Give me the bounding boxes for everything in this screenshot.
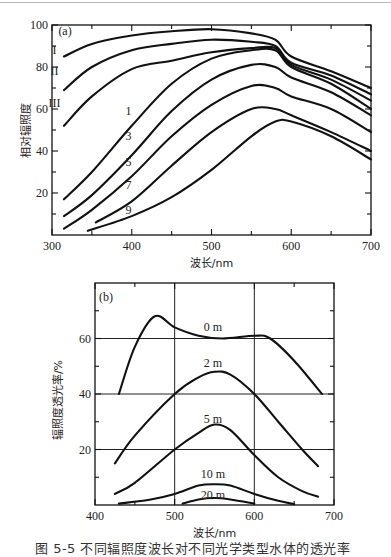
series-line-7 <box>96 107 371 222</box>
curve-annotation: (b) <box>99 290 113 304</box>
curve-annotation: 5 m <box>204 412 223 426</box>
x-axis-label: 波长/nm <box>190 257 233 270</box>
y-axis-label: 辐照度透光率/% <box>51 360 65 440</box>
curve-annotation: (a) <box>58 24 71 38</box>
x-tick-label: 500 <box>203 239 221 253</box>
figure-caption: 图 5-5 不同辐照度波长对不同光学类型水体的透光率 <box>35 538 351 557</box>
y-axis-label: 相对辐照度 <box>19 103 33 158</box>
x-tick-label: 500 <box>166 509 184 523</box>
curve-annotation: I <box>52 43 56 57</box>
x-tick-label: 600 <box>245 509 263 523</box>
chart-panel-a: 30040050060070020406080100波长/nm相对辐照度(a)I… <box>19 18 380 270</box>
curve-annotation: 5 <box>126 155 132 169</box>
series-line-3 <box>64 64 371 216</box>
curve-annotation: 7 <box>126 178 132 192</box>
y-tick-label: 80 <box>36 60 48 74</box>
y-tick-label: 60 <box>79 332 91 346</box>
series-line-II <box>64 40 371 95</box>
curve-annotation: 10 m <box>201 467 226 481</box>
y-tick-label: 40 <box>36 144 48 158</box>
series-line-5m <box>115 424 318 496</box>
y-tick-label: 60 <box>36 102 48 116</box>
y-tick-label: 100 <box>30 18 48 32</box>
y-tick-label: 20 <box>79 443 91 457</box>
chart-panel-b: 400500600700204060波长/nm辐照度透光率/%(b)0 m2 m… <box>51 283 343 540</box>
curve-annotation: 20 m <box>201 488 226 502</box>
x-tick-label: 400 <box>86 509 104 523</box>
curve-annotation: II <box>50 64 58 78</box>
curve-annotation: III <box>48 96 60 110</box>
curve-annotation: 1 <box>126 104 132 118</box>
x-tick-label: 700 <box>362 239 380 253</box>
series-line-5 <box>64 85 371 229</box>
x-tick-label: 700 <box>325 509 343 523</box>
curve-annotation: 0 m <box>204 320 223 334</box>
curve-annotation: 2 m <box>204 356 223 370</box>
x-tick-label: 600 <box>282 239 300 253</box>
curve-annotation: 3 <box>126 129 132 143</box>
curve-annotation: 9 <box>126 203 132 217</box>
y-tick-label: 20 <box>36 186 48 200</box>
y-tick-label: 40 <box>79 387 91 401</box>
x-tick-label: 300 <box>43 239 61 253</box>
x-tick-label: 400 <box>123 239 141 253</box>
